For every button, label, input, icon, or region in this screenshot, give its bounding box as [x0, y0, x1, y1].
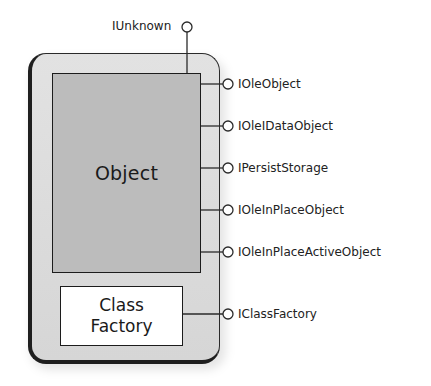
ioleinplaceactiveobject-label: IOleInPlaceActiveObject	[238, 245, 381, 259]
iunknown-label: IUnknown	[112, 19, 171, 33]
iunknown-lollipop-icon	[182, 22, 192, 32]
class-factory-label-line1: Class	[99, 295, 144, 316]
object-label: Object	[95, 162, 158, 184]
ioleobject-label: IOleObject	[238, 77, 301, 91]
ipersiststorage-label: IPersistStorage	[238, 161, 328, 175]
ioleinplaceobject-label: IOleInPlaceObject	[238, 203, 344, 217]
iclassfactory-label: IClassFactory	[238, 307, 317, 321]
object-box: Object	[52, 73, 201, 273]
class-factory-box: Class Factory	[60, 286, 183, 346]
class-factory-label-line2: Factory	[90, 316, 152, 337]
ioleidataobject-label: IOleIDataObject	[238, 119, 333, 133]
ole-object-diagram: Object Class Factory	[0, 0, 431, 386]
